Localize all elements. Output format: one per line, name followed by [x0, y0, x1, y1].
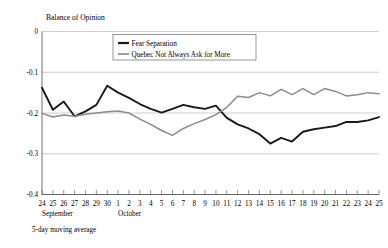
y-axis-title: Balance of Opinion — [46, 13, 105, 22]
y-tick-label: 0 — [34, 28, 38, 36]
legend: Fear Separation Quebec Not Always Ask fo… — [113, 35, 256, 61]
x-tick-label: 12 — [234, 200, 242, 208]
x-tick-label: 3 — [138, 200, 142, 208]
y-axis-tick-labels: 0-0.1-0.2-0.3-0.4 — [27, 28, 39, 199]
series-line-fear-separation — [42, 86, 379, 144]
x-tick-label: 21 — [332, 200, 340, 208]
x-tick-label: 11 — [223, 200, 230, 208]
legend-label-quebec-not-always-ask-for-more: Quebec Not Always Ask for More — [132, 51, 230, 59]
x-tick-label: 17 — [288, 200, 296, 208]
x-tick-label: 27 — [71, 200, 79, 208]
x-tick-label: 29 — [93, 200, 101, 208]
x-tick-label: 28 — [82, 200, 90, 208]
y-tick-label: -0.3 — [27, 150, 39, 158]
chart-figure: 0-0.1-0.2-0.3-0.4 2425262728293012345678… — [0, 0, 388, 248]
x-tick-label: 25 — [49, 200, 57, 208]
series-line-quebec-not-always-ask-for-more — [42, 89, 379, 136]
x-tick-label: 16 — [278, 200, 286, 208]
x-tick-label: 13 — [245, 200, 253, 208]
y-tick-label: -0.2 — [27, 110, 39, 118]
x-tick-label: 10 — [212, 200, 220, 208]
y-tick-label: -0.4 — [27, 191, 39, 199]
x-axis-month-labels: SeptemberOctober — [42, 210, 142, 218]
month-label: October — [118, 210, 142, 218]
x-tick-label: 4 — [149, 200, 153, 208]
x-tick-label: 26 — [60, 200, 68, 208]
x-tick-label: 22 — [343, 200, 351, 208]
x-tick-label: 30 — [104, 200, 112, 208]
x-tick-label: 20 — [321, 200, 329, 208]
x-tick-label: 6 — [171, 200, 175, 208]
x-tick-label: 19 — [310, 200, 318, 208]
x-tick-label: 5 — [160, 200, 164, 208]
x-tick-label: 24 — [365, 200, 373, 208]
x-tick-label: 7 — [182, 200, 186, 208]
legend-label-fear-separation: Fear Separation — [132, 40, 178, 48]
x-axis-tick-labels: 2425262728293012345678910111213141516171… — [38, 200, 383, 208]
x-tick-label: 1 — [116, 200, 120, 208]
x-tick-label: 15 — [267, 200, 275, 208]
y-tick-label: -0.1 — [27, 69, 39, 77]
x-tick-label: 25 — [375, 200, 383, 208]
x-tick-label: 9 — [203, 200, 207, 208]
x-tick-label: 2 — [127, 200, 131, 208]
x-tick-label: 8 — [192, 200, 196, 208]
x-tick-label: 23 — [354, 200, 362, 208]
x-tick-label: 18 — [299, 200, 307, 208]
data-series-group — [42, 86, 379, 144]
month-label: September — [42, 210, 73, 218]
x-axis-tick-marks — [42, 190, 379, 195]
x-tick-label: 24 — [38, 200, 46, 208]
chart-footnote: 5-day moving average — [32, 226, 96, 234]
balance-of-opinion-line-chart: 0-0.1-0.2-0.3-0.4 2425262728293012345678… — [0, 0, 388, 248]
x-tick-label: 14 — [256, 200, 264, 208]
